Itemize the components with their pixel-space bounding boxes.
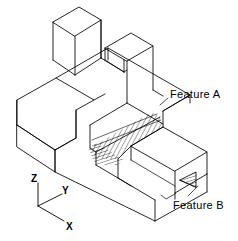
feature-a-hatching	[80, 100, 180, 173]
prong-right	[105, 33, 153, 103]
technical-drawing-figure: Feature A Feature B Z Y X	[0, 0, 238, 241]
feature-a-label: Feature A	[170, 89, 220, 100]
prong-left	[53, 7, 101, 75]
axis-label-z: Z	[31, 174, 37, 184]
fork-notch	[101, 20, 124, 72]
axis-line-x	[38, 206, 64, 221]
solid-body-outline	[17, 7, 207, 221]
axis-triad	[38, 183, 64, 221]
axis-line-y	[38, 194, 62, 206]
axis-label-x: X	[66, 222, 73, 232]
base-block-left	[17, 78, 94, 172]
feature-b-label: Feature B	[173, 200, 224, 211]
axis-label-y: Y	[62, 186, 69, 196]
feature-b-notch	[176, 168, 202, 192]
